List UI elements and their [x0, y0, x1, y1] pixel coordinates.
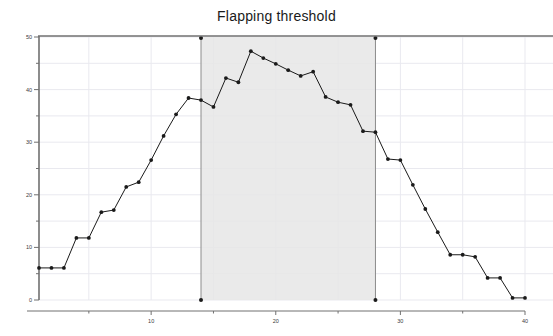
- data-point-marker: [124, 185, 128, 189]
- data-point-marker: [336, 100, 340, 104]
- data-point-marker: [361, 129, 365, 133]
- data-point-marker: [149, 158, 153, 162]
- shaded-region: [199, 36, 377, 302]
- data-point-marker: [523, 296, 527, 300]
- shaded-region-rect: [201, 37, 375, 300]
- data-point-marker: [311, 70, 315, 74]
- chart-container: Flapping threshold 0102030405010203040: [0, 0, 553, 336]
- y-tick-label: 20: [26, 192, 32, 198]
- line-chart-plot: 0102030405010203040: [0, 0, 553, 336]
- data-point-marker: [498, 276, 502, 280]
- data-point-marker: [37, 266, 41, 270]
- data-point-marker: [137, 180, 141, 184]
- data-point-marker: [174, 112, 178, 116]
- y-tick-label: 50: [26, 34, 32, 40]
- y-tick-label: 0: [29, 297, 32, 303]
- y-tick-label: 40: [26, 87, 32, 93]
- data-point-marker: [486, 276, 490, 280]
- data-point-marker: [74, 236, 78, 240]
- data-point-marker: [299, 74, 303, 78]
- data-point-marker: [261, 56, 265, 60]
- data-point-marker: [112, 208, 116, 212]
- data-point-marker: [386, 157, 390, 161]
- data-point-marker: [398, 158, 402, 162]
- data-point-marker: [286, 68, 290, 72]
- y-tick-label: 30: [26, 139, 32, 145]
- data-point-marker: [199, 98, 203, 102]
- data-point-marker: [87, 236, 91, 240]
- data-point-marker: [212, 105, 216, 109]
- data-point-marker: [349, 103, 353, 107]
- data-point-marker: [224, 76, 228, 80]
- data-point-marker: [511, 296, 515, 300]
- data-point-marker: [99, 210, 103, 214]
- data-point-marker: [473, 255, 477, 259]
- x-tick-label: 20: [273, 318, 279, 324]
- x-tick-label: 10: [148, 318, 154, 324]
- data-point-marker: [461, 253, 465, 257]
- data-point-marker: [411, 183, 415, 187]
- x-tick-label: 40: [522, 318, 528, 324]
- data-point-marker: [249, 49, 253, 53]
- y-tick-label: 10: [26, 244, 32, 250]
- region-start-handle-bottom[interactable]: [199, 298, 203, 302]
- data-point-marker: [324, 95, 328, 99]
- data-point-marker: [187, 96, 191, 100]
- region-end-handle-bottom[interactable]: [373, 298, 377, 302]
- data-point-marker: [374, 130, 378, 134]
- data-point-marker: [448, 253, 452, 257]
- data-point-marker: [50, 266, 54, 270]
- data-point-marker: [436, 230, 440, 234]
- data-point-marker: [62, 266, 66, 270]
- data-point-marker: [274, 62, 278, 66]
- data-point-marker: [423, 207, 427, 211]
- data-point-marker: [236, 80, 240, 84]
- data-point-marker: [162, 134, 166, 138]
- x-tick-label: 30: [397, 318, 403, 324]
